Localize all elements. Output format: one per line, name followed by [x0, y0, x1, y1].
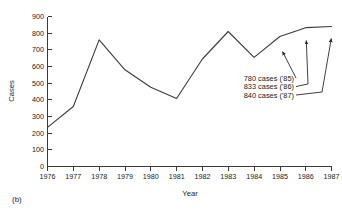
figure-panel: 0 100 200 300 400 500 600 700 800 900: [0, 0, 342, 212]
y-tick-label: 100: [32, 145, 44, 154]
leader-1986: [296, 41, 308, 87]
y-tick-label: 800: [32, 29, 44, 38]
x-axis-tick-labels: 1976 1977 1978 1979 1980 1981 1982 1983 …: [40, 172, 340, 181]
y-tick-label: 400: [32, 95, 44, 104]
panel-label: (b): [12, 195, 22, 204]
x-tick-label: 1981: [169, 172, 185, 181]
x-tick-label: 1984: [246, 172, 262, 181]
y-tick-label: 500: [32, 79, 44, 88]
y-tick-label: 900: [32, 12, 44, 21]
y-tick-label: 300: [32, 112, 44, 121]
line-chart: 0 100 200 300 400 500 600 700 800 900: [0, 0, 342, 212]
y-axis-ticks: [48, 17, 52, 167]
annotation-label-1987: 840 cases ('87): [244, 91, 294, 100]
annotation-labels: 780 cases ('85) 833 cases ('86) 840 case…: [244, 74, 294, 100]
y-tick-label: 700: [32, 45, 44, 54]
x-tick-label: 1983: [220, 172, 236, 181]
x-tick-label: 1980: [143, 172, 159, 181]
x-tick-label: 1985: [272, 172, 288, 181]
x-tick-label: 1976: [40, 172, 56, 181]
y-tick-label: 0: [40, 162, 44, 171]
y-axis-title: Cases: [7, 80, 16, 102]
x-axis-title: Year: [182, 189, 198, 198]
y-axis-tick-labels: 0 100 200 300 400 500 600 700 800 900: [32, 12, 44, 171]
x-tick-label: 1987: [324, 172, 340, 181]
x-tick-label: 1977: [65, 172, 81, 181]
x-tick-label: 1979: [117, 172, 133, 181]
x-tick-label: 1986: [298, 172, 314, 181]
leader-1987: [296, 39, 331, 96]
x-tick-label: 1982: [195, 172, 211, 181]
y-tick-label: 600: [32, 62, 44, 71]
x-tick-label: 1978: [91, 172, 107, 181]
y-tick-label: 200: [32, 129, 44, 138]
x-axis-ticks: [48, 167, 332, 171]
